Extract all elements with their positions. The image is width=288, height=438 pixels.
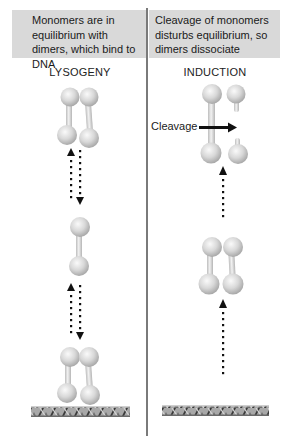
dna-left <box>31 406 130 417</box>
dotted-line-down <box>79 150 81 194</box>
dna-right <box>162 405 269 416</box>
dimer-cleaved-right <box>201 84 249 164</box>
dimer-top-left <box>57 88 99 149</box>
dotted-line-up <box>70 160 72 198</box>
diagram-canvas <box>0 0 288 438</box>
dimer-free-right <box>199 237 244 295</box>
monomer-left <box>69 217 90 276</box>
dimer-bound-left <box>57 347 100 405</box>
reversible-arrow-lower <box>67 283 84 340</box>
cleavage-arrow <box>199 123 237 133</box>
dissociation-arrow-lower <box>219 299 227 374</box>
reversible-arrow-upper <box>67 148 84 205</box>
dotted-line-down <box>79 285 81 329</box>
dissociation-arrow-upper <box>219 166 227 217</box>
dotted-line-up <box>70 295 72 333</box>
